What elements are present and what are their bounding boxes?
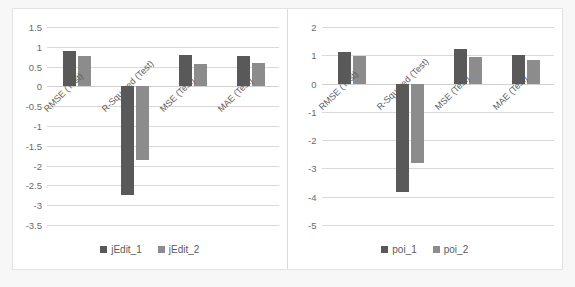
- bar-group: [438, 27, 496, 225]
- figure-panels: 1.510.50-0.5-1-1.5-2-2.5-3-3.5 RMSE (Tes…: [12, 8, 563, 270]
- legend-item[interactable]: poi_1: [381, 244, 416, 255]
- y-axis-tick-label: -2: [308, 135, 316, 146]
- legend-swatch-icon: [100, 246, 107, 253]
- legend-item[interactable]: jEdit_2: [158, 244, 200, 255]
- bar-jEdit_1-mae-test-: [237, 56, 250, 87]
- bar-jEdit_2-rmse-test-: [78, 56, 91, 87]
- bar-series-container: [47, 27, 279, 225]
- y-axis-tick-label: -0.5: [26, 101, 42, 112]
- bar-group: [47, 27, 105, 225]
- plot-area-poi: 210-1-2-3-4-5: [322, 27, 555, 225]
- y-axis-tick-label: -1: [308, 106, 316, 117]
- gridline: [47, 225, 279, 226]
- figure-canvas: 1.510.50-0.5-1-1.5-2-2.5-3-3.5 RMSE (Tes…: [0, 0, 575, 287]
- y-axis-tick-label: -4: [308, 191, 316, 202]
- bar-poi_2-r-squared-test-: [411, 84, 424, 163]
- y-axis-tick-label: 2: [311, 22, 316, 33]
- y-axis-tick-label: -1: [34, 121, 42, 132]
- bar-group: [221, 27, 279, 225]
- legend-label: poi_1: [392, 244, 416, 255]
- y-axis-tick-label: -3.5: [26, 220, 42, 231]
- bar-poi_1-r-squared-test-: [396, 84, 409, 193]
- y-axis-tick-label: 1.5: [29, 22, 42, 33]
- y-axis-tick-label: -1.5: [26, 140, 42, 151]
- chart-panel-poi: 210-1-2-3-4-5 RMSE (Test)R-Squared (Test…: [288, 9, 563, 269]
- legend-label: jEdit_2: [169, 244, 200, 255]
- bar-poi_2-mse-test-: [469, 57, 482, 84]
- bar-jEdit_1-rmse-test-: [63, 51, 76, 87]
- gridline: [322, 225, 555, 226]
- chart-panel-jedit: 1.510.50-0.5-1-1.5-2-2.5-3-3.5 RMSE (Tes…: [13, 9, 288, 269]
- bar-jEdit_2-r-squared-test-: [136, 86, 149, 159]
- legend-swatch-icon: [433, 246, 440, 253]
- bar-poi_2-mae-test-: [527, 60, 540, 83]
- y-axis-tick-label: 1: [311, 50, 316, 61]
- y-axis-tick-label: 0.5: [29, 61, 42, 72]
- y-axis-tick-label: -3: [34, 200, 42, 211]
- legend-label: poi_2: [444, 244, 468, 255]
- bar-poi_1-mae-test-: [512, 55, 525, 83]
- y-axis-tick-label: -5: [308, 220, 316, 231]
- bar-group: [322, 27, 380, 225]
- legend-poi: poi_1poi_2: [288, 244, 563, 255]
- bar-poi_2-rmse-test-: [353, 56, 366, 83]
- y-axis-tick-label: 1: [37, 41, 42, 52]
- bar-poi_1-rmse-test-: [338, 52, 351, 83]
- bar-group: [105, 27, 163, 225]
- bar-series-container: [322, 27, 555, 225]
- y-axis-tick-label: 0: [311, 78, 316, 89]
- bar-jEdit_1-mse-test-: [179, 55, 192, 87]
- y-axis-tick-label: 0: [37, 81, 42, 92]
- y-axis-tick-label: -2.5: [26, 180, 42, 191]
- bar-jEdit_2-mse-test-: [194, 64, 207, 87]
- y-axis-tick-label: -2: [34, 160, 42, 171]
- legend-item[interactable]: poi_2: [433, 244, 468, 255]
- legend-label: jEdit_1: [111, 244, 142, 255]
- bar-jEdit_1-r-squared-test-: [121, 86, 134, 195]
- legend-swatch-icon: [381, 246, 388, 253]
- legend-swatch-icon: [158, 246, 165, 253]
- plot-area-jedit: 1.510.50-0.5-1-1.5-2-2.5-3-3.5: [47, 27, 279, 225]
- bar-group: [163, 27, 221, 225]
- bar-jEdit_2-mae-test-: [252, 63, 265, 86]
- legend-jedit: jEdit_1jEdit_2: [13, 244, 287, 255]
- y-axis-tick-label: -3: [308, 163, 316, 174]
- bar-poi_1-mse-test-: [454, 49, 467, 84]
- bar-group: [380, 27, 438, 225]
- legend-item[interactable]: jEdit_1: [100, 244, 142, 255]
- bar-group: [496, 27, 554, 225]
